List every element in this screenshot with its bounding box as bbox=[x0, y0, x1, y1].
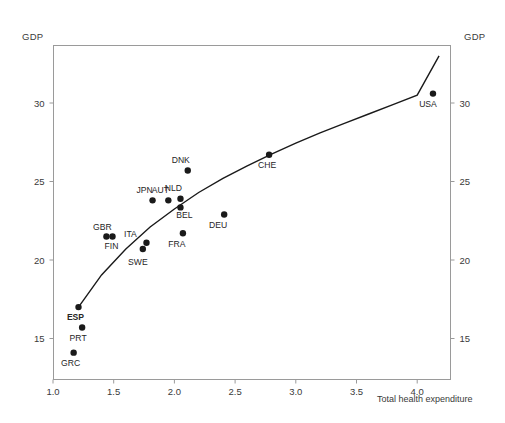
x-tick-label: 3.0 bbox=[289, 386, 302, 397]
data-point-label-grc: GRC bbox=[61, 358, 80, 368]
y-tick-label-right: 15 bbox=[460, 333, 471, 344]
y-tick-label-left: 15 bbox=[34, 333, 45, 344]
data-point-label-prt: PRT bbox=[70, 333, 88, 343]
plot-frame bbox=[54, 46, 451, 380]
y-tick-label-right: 20 bbox=[460, 255, 471, 266]
data-point-label-usa: USA bbox=[419, 99, 437, 109]
data-point-deu[interactable] bbox=[221, 211, 227, 217]
data-point-label-fra: FRA bbox=[168, 239, 185, 249]
data-point-label-nld: NLD bbox=[165, 183, 182, 193]
data-point-usa[interactable] bbox=[430, 90, 436, 96]
data-point-fra[interactable] bbox=[180, 230, 186, 236]
data-point-label-deu: DEU bbox=[209, 220, 227, 230]
data-point-ita[interactable] bbox=[143, 240, 149, 246]
y-axis-ticks-right: 15202530 bbox=[451, 98, 471, 345]
data-point-label-gbr: GBR bbox=[93, 222, 112, 232]
data-point-label-fin: FIN bbox=[105, 241, 119, 251]
x-axis-ticks: 1.01.52.02.53.03.54.0 bbox=[46, 380, 423, 397]
trend-line bbox=[78, 56, 439, 307]
data-point-swe[interactable] bbox=[140, 246, 146, 252]
data-point-grc[interactable] bbox=[70, 349, 76, 355]
data-point-gbr[interactable] bbox=[103, 233, 109, 239]
y-axis-ticks-left: 15202530 bbox=[34, 98, 54, 345]
data-point-nld[interactable] bbox=[177, 196, 183, 202]
data-point-label-bel: BEL bbox=[176, 210, 192, 220]
data-point-label-dnk: DNK bbox=[172, 155, 190, 165]
data-point-prt[interactable] bbox=[79, 324, 85, 330]
x-tick-label: 1.5 bbox=[107, 386, 120, 397]
y-tick-label-left: 25 bbox=[34, 176, 45, 187]
data-points bbox=[70, 90, 436, 355]
data-point-fin[interactable] bbox=[109, 233, 115, 239]
data-point-label-jpn: JPN bbox=[136, 185, 152, 195]
data-point-labels: GRCESPPRTGBRFINSWEITAJPNAUTNLDBELFRADNKD… bbox=[61, 99, 437, 368]
data-point-dnk[interactable] bbox=[185, 167, 191, 173]
x-tick-label: 2.0 bbox=[168, 386, 181, 397]
data-point-label-che: CHE bbox=[258, 160, 276, 170]
y-tick-label-left: 20 bbox=[34, 255, 45, 266]
data-point-che[interactable] bbox=[266, 152, 272, 158]
data-point-jpn[interactable] bbox=[149, 197, 155, 203]
x-tick-label: 1.0 bbox=[46, 386, 59, 397]
x-tick-label: 2.5 bbox=[228, 386, 241, 397]
data-point-aut[interactable] bbox=[165, 197, 171, 203]
y-tick-label-right: 30 bbox=[460, 98, 471, 109]
x-tick-label: 3.5 bbox=[350, 386, 363, 397]
data-point-esp[interactable] bbox=[75, 304, 81, 310]
data-point-label-esp: ESP bbox=[67, 312, 84, 322]
plot-area: 1.01.52.02.53.03.54.0 15202530 15202530 … bbox=[0, 0, 505, 423]
data-point-label-swe: SWE bbox=[128, 257, 148, 267]
scatter-chart-figure: GDP GDP Total health expenditure 1.01.52… bbox=[0, 0, 505, 423]
data-point-label-ita: ITA bbox=[124, 229, 137, 239]
y-tick-label-left: 30 bbox=[34, 98, 45, 109]
y-tick-label-right: 25 bbox=[460, 176, 471, 187]
x-tick-label: 4.0 bbox=[411, 386, 424, 397]
